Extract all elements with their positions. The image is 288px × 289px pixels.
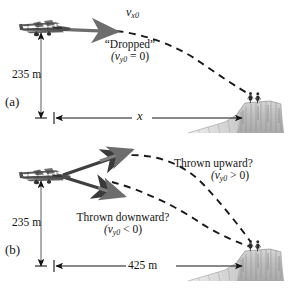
height-label-a: 235 m (12, 68, 41, 80)
thrown-downward-line2: (vy0 < 0) (61, 223, 185, 238)
velocity-label-a: vx0 (126, 6, 139, 21)
dropped-note-a: “Dropped” (vy0 = 0) (83, 38, 177, 65)
panel-letter-a: (a) (5, 95, 19, 109)
cliff-icon-b (188, 249, 284, 281)
thrown-upward-note-b: Thrown upward? (vy0 > 0) (174, 157, 286, 184)
velocity-arrow-downward-icon-b (63, 177, 124, 196)
dropped-note-line2: (vy0 = 0) (83, 50, 177, 65)
thrown-upward-line2: (vy0 > 0) (174, 169, 286, 184)
dropped-note-line1: “Dropped” (105, 38, 155, 50)
airplane-icon-b (18, 168, 71, 184)
velocity-arrow-upward-icon-b (63, 150, 132, 175)
velocity-subscript-a: x0 (131, 11, 139, 20)
range-label-a: x (137, 110, 143, 124)
range-label-b: 425 m (128, 259, 157, 271)
cliff-icon-a (188, 101, 284, 133)
thrown-downward-note-b: Thrown downward? (vy0 < 0) (61, 211, 185, 238)
thrown-downward-line1: Thrown downward? (77, 211, 170, 223)
panel-letter-b: (b) (5, 243, 20, 257)
airplane-icon-a (18, 20, 71, 36)
panel-a-graphics (18, 20, 284, 133)
height-label-b: 235 m (12, 216, 41, 228)
projectile-figure: vx0 “Dropped” (vy0 = 0) 235 m (a) x Thro… (0, 0, 288, 289)
thrown-upward-line1: Thrown upward? (174, 157, 253, 169)
